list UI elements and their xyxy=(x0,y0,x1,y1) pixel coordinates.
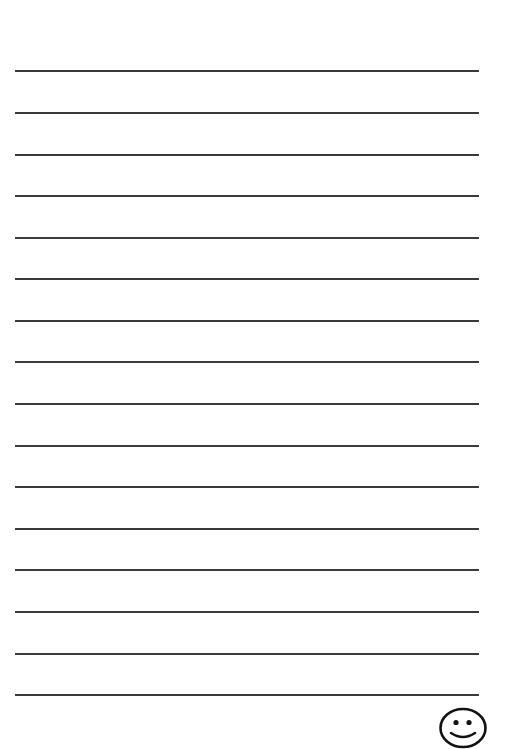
writing-line xyxy=(15,694,479,696)
writing-line xyxy=(15,320,479,322)
writing-line xyxy=(15,569,479,571)
smiley-face-icon xyxy=(438,707,488,749)
writing-line xyxy=(15,611,479,613)
writing-line xyxy=(15,361,479,363)
writing-line xyxy=(15,445,479,447)
writing-line xyxy=(15,154,479,156)
lined-writing-sheet xyxy=(0,0,509,749)
writing-line xyxy=(15,70,479,72)
writing-line xyxy=(15,486,479,488)
writing-line xyxy=(15,403,479,405)
writing-line xyxy=(15,528,479,530)
writing-line xyxy=(15,195,479,197)
writing-line xyxy=(15,237,479,239)
writing-line xyxy=(15,112,479,114)
writing-line xyxy=(15,653,479,655)
writing-line xyxy=(15,278,479,280)
